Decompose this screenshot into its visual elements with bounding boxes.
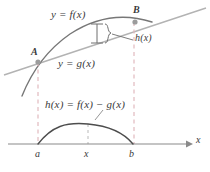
label-line-g: y = g(x)	[58, 58, 95, 69]
label-point-a: A	[31, 47, 38, 57]
x-axis-arrowhead	[186, 141, 193, 148]
label-curve-f: y = f(x)	[51, 9, 86, 20]
point-a-marker	[35, 59, 40, 64]
leader-line-hdef	[95, 110, 103, 120]
point-b-marker	[132, 19, 137, 24]
label-tick-x: x	[84, 149, 89, 159]
label-axis-x: x	[196, 135, 201, 145]
label-gap-h: h(x)	[135, 33, 152, 43]
hump-curve-h	[38, 124, 133, 144]
leader-line-h	[112, 34, 133, 40]
figure-container: y = f(x) y = g(x) h(x) h(x) = f(x) − g(x…	[0, 0, 210, 172]
label-tick-a: a	[35, 149, 40, 159]
label-point-b: B	[133, 5, 140, 15]
secant-line-g	[4, 8, 206, 75]
label-h-definition: h(x) = f(x) − g(x)	[45, 99, 125, 110]
figure-drawing	[0, 0, 210, 172]
label-tick-b: b	[129, 149, 134, 159]
